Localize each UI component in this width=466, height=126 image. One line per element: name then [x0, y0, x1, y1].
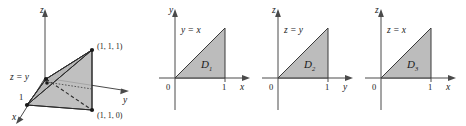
tick-label-1: 1 — [222, 82, 226, 92]
z-axis-label: z — [39, 5, 44, 15]
vertex-dot-100 — [25, 103, 29, 107]
x-intercept-label: 1 — [19, 92, 23, 102]
panel-region-d3: z x 0 1 z = x D3 — [361, 0, 466, 126]
panel-region-d2: z y 0 1 z = y D2 — [258, 0, 363, 126]
region-triangle — [381, 28, 431, 78]
solid-region-diagram: z y x — [0, 0, 155, 126]
origin-label: 0 — [269, 82, 273, 92]
x-axis-label: x — [11, 112, 17, 122]
region-triangle — [175, 28, 225, 78]
horizontal-axis-label: x — [445, 82, 451, 92]
y-axis-label: y — [122, 95, 128, 105]
horizontal-axis-label: x — [239, 82, 245, 92]
tick-label-1: 1 — [325, 82, 329, 92]
vertex-dot-origin — [45, 81, 49, 85]
vertical-axis-label: z — [271, 5, 276, 15]
region-triangle — [278, 28, 328, 78]
vertex-label-110: (1, 1, 0) — [97, 111, 123, 120]
region-d3-diagram: z x 0 1 z = x D3 — [361, 0, 466, 126]
boundary-line-label: z = x — [386, 25, 407, 35]
vertical-axis — [378, 9, 384, 110]
vertical-axis-label: y — [168, 5, 174, 15]
vertical-axis-label: z — [374, 5, 379, 15]
panel-region-d1: y x 0 1 y = x D1 — [155, 0, 260, 126]
boundary-line-label: z = y — [283, 25, 304, 35]
horizontal-axis-label: y — [342, 82, 348, 92]
origin-label: 0 — [372, 82, 376, 92]
vertex-dot-111 — [90, 48, 94, 52]
plane-equation-label: z = y — [9, 72, 30, 82]
vertex-dot-110 — [90, 108, 94, 112]
region-d1-diagram: y x 0 1 y = x D1 — [155, 0, 260, 126]
origin-label: 0 — [166, 82, 170, 92]
vertical-axis — [275, 9, 281, 110]
region-d2-diagram: z y 0 1 z = y D2 — [258, 0, 363, 126]
panel-solid-region: z y x — [0, 0, 155, 126]
math-figure: z y x — [0, 0, 466, 126]
z-axis — [42, 9, 48, 78]
vertex-dot-plane — [44, 77, 48, 81]
tetrahedron-face-front — [27, 50, 92, 110]
vertex-label-111: (1, 1, 1) — [97, 42, 123, 51]
boundary-line-label: y = x — [180, 25, 201, 35]
vertical-axis — [172, 9, 178, 110]
tick-label-1: 1 — [428, 82, 432, 92]
